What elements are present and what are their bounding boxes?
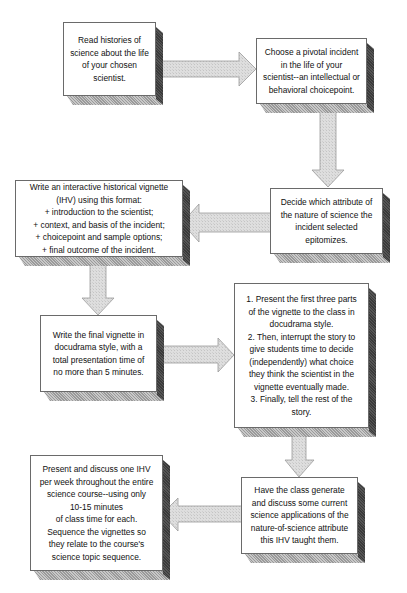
arrow-step2-to-step3 [311, 103, 345, 189]
left-arrow-icon [181, 203, 273, 243]
down-arrow-icon [311, 103, 345, 189]
step-6-text: 1. Present the first three parts of the … [246, 293, 356, 418]
step-2-text: Choose a pivotal incident in the life of… [263, 46, 360, 96]
arrow-step7-to-step8 [161, 497, 243, 532]
step-box-3: Decide which attribute of the nature of … [270, 188, 383, 254]
step-8-text: Present and discuss one IHV per week thr… [40, 463, 154, 563]
step-box-1: Read histories of science about the life… [63, 22, 156, 96]
arrow-step3-to-step4 [181, 203, 273, 243]
arrow-step1-to-step2 [155, 52, 257, 88]
step-box-2: Choose a pivotal incident in the life of… [256, 38, 367, 104]
step-box-8: Present and discuss one IHV per week thr… [30, 455, 163, 571]
step-box-7: Have the class generate and discuss some… [241, 477, 358, 554]
step-3-text: Decide which attribute of the nature of … [281, 196, 373, 246]
step-1-text: Read histories of science about the life… [70, 34, 149, 84]
arrow-step5-to-step6 [156, 338, 236, 374]
right-arrow-icon [155, 52, 257, 88]
step-5-text: Write the final vignette in docudrama st… [53, 329, 145, 379]
right-arrow-icon [156, 338, 236, 374]
step-4-text: Write an interactive historical vignette… [30, 181, 169, 256]
step-box-4: Write an interactive historical vignette… [15, 180, 183, 257]
step-box-5: Write the final vignette in docudrama st… [40, 315, 157, 392]
step-box-6: 1. Present the first three parts of the … [234, 283, 369, 428]
step-7-text: Have the class generate and discuss some… [250, 484, 348, 547]
left-arrow-icon [161, 497, 243, 532]
